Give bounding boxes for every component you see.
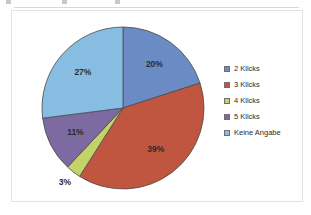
- pie-slice-group: [42, 27, 204, 189]
- pie-slice-data-label: 39%: [147, 144, 164, 154]
- legend-item: 3 Klicks: [224, 77, 304, 93]
- legend-color-swatch: [224, 98, 230, 104]
- legend-item-label: 5 Klicks: [234, 113, 260, 121]
- chart-frame: 20%39%3%11%27% 2 Klicks3 Klicks4 Klicks5…: [11, 10, 303, 202]
- legend-item: Keine Angabe: [224, 125, 304, 141]
- legend-color-swatch: [224, 82, 230, 88]
- artifact-divider: [14, 7, 299, 8]
- artifact-mark: [115, 0, 120, 4]
- pie-chart-svg: 20%39%3%11%27%: [40, 25, 206, 191]
- legend-color-swatch: [224, 66, 230, 72]
- chart-legend: 2 Klicks3 Klicks4 Klicks5 KlicksKeine An…: [224, 61, 304, 141]
- legend-item-label: Keine Angabe: [234, 129, 281, 137]
- legend-item: 2 Klicks: [224, 61, 304, 77]
- legend-item-label: 2 Klicks: [234, 65, 260, 73]
- legend-color-swatch: [224, 114, 230, 120]
- artifact-mark: [6, 0, 11, 4]
- legend-item: 4 Klicks: [224, 93, 304, 109]
- legend-item: 5 Klicks: [224, 109, 304, 125]
- legend-item-label: 4 Klicks: [234, 97, 260, 105]
- pie-slice-data-label: 3%: [59, 177, 72, 187]
- pie-chart-plot-area: 20%39%3%11%27%: [12, 11, 217, 201]
- pie-slice-data-label: 11%: [67, 127, 84, 137]
- pie-slice-data-label: 20%: [146, 59, 163, 69]
- legend-item-label: 3 Klicks: [234, 81, 260, 89]
- pie-slice-data-label: 27%: [74, 67, 91, 77]
- legend-color-swatch: [224, 130, 230, 136]
- artifact-mark: [62, 0, 67, 4]
- top-cropped-artifacts: [0, 0, 311, 9]
- pie-chart: 20%39%3%11%27%: [40, 25, 206, 191]
